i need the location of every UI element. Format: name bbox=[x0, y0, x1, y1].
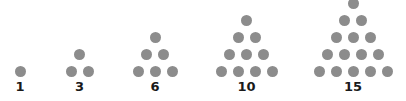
dot bbox=[365, 32, 376, 43]
figure-label: 3 bbox=[60, 79, 100, 95]
dot bbox=[365, 66, 376, 77]
dot bbox=[250, 66, 261, 77]
dot bbox=[250, 32, 261, 43]
dot bbox=[339, 15, 350, 26]
dot bbox=[150, 32, 161, 43]
dot bbox=[216, 66, 227, 77]
dot bbox=[331, 32, 342, 43]
triangular-numbers-diagram: 1361015 bbox=[0, 0, 406, 101]
dot bbox=[348, 66, 359, 77]
dot bbox=[141, 49, 152, 60]
dot bbox=[267, 66, 278, 77]
dot bbox=[224, 49, 235, 60]
dot bbox=[158, 49, 169, 60]
dot bbox=[167, 66, 178, 77]
dot bbox=[322, 49, 333, 60]
dot bbox=[356, 15, 367, 26]
dot bbox=[382, 66, 393, 77]
dot bbox=[339, 49, 350, 60]
dot bbox=[241, 15, 252, 26]
dot bbox=[233, 66, 244, 77]
dot bbox=[331, 66, 342, 77]
dot bbox=[348, 0, 359, 9]
figure-label: 15 bbox=[333, 79, 373, 95]
dot bbox=[356, 49, 367, 60]
dot bbox=[314, 66, 325, 77]
dot bbox=[66, 66, 77, 77]
dot bbox=[348, 32, 359, 43]
dot bbox=[133, 66, 144, 77]
figure-label: 10 bbox=[227, 79, 267, 95]
dot bbox=[258, 49, 269, 60]
dot bbox=[373, 49, 384, 60]
dot bbox=[241, 49, 252, 60]
dot bbox=[83, 66, 94, 77]
dot bbox=[74, 49, 85, 60]
figure-label: 1 bbox=[0, 79, 40, 95]
dot bbox=[15, 66, 26, 77]
dot bbox=[150, 66, 161, 77]
figure-label: 6 bbox=[135, 79, 175, 95]
dot bbox=[233, 32, 244, 43]
